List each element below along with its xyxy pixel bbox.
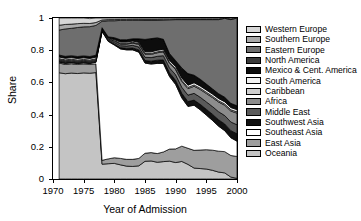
legend-label: Mexico & Cent. America [265, 66, 357, 75]
legend-swatch-icon [246, 88, 261, 95]
legend-item[interactable]: Southern Europe [246, 34, 357, 44]
x-tick-label: 1995 [189, 186, 223, 196]
legend-label: Southeast Asia [265, 128, 322, 137]
legend-swatch-icon [246, 108, 261, 115]
legend-label: Caribbean [265, 87, 305, 96]
legend-label: North America [265, 56, 319, 65]
x-tick-mark [53, 180, 54, 183]
plot-area [52, 17, 238, 180]
y-tick-label: 1 [22, 13, 44, 23]
legend-item[interactable]: Africa [246, 96, 357, 106]
legend-swatch-icon [246, 26, 261, 33]
legend-swatch-icon [246, 36, 261, 43]
y-tick-mark [49, 179, 52, 180]
x-tick-mark [84, 180, 85, 183]
legend: Western EuropeSouthern EuropeEastern Eur… [246, 24, 357, 158]
x-tick-mark [237, 180, 238, 183]
y-tick-label: 0.2 [22, 142, 44, 152]
legend-item[interactable]: East Asia [246, 138, 357, 148]
legend-item[interactable]: Caribbean [246, 86, 357, 96]
legend-item[interactable]: Mexico & Cent. America [246, 65, 357, 75]
legend-label: East Asia [265, 139, 301, 148]
legend-label: Southern Europe [265, 35, 330, 44]
y-axis-title: Share [6, 60, 18, 120]
x-tick-mark [145, 180, 146, 183]
legend-label: Oceania [265, 149, 297, 158]
legend-item[interactable]: Southeast Asia [246, 127, 357, 137]
x-tick-label: 1990 [159, 186, 193, 196]
y-tick-mark [49, 82, 52, 83]
legend-item[interactable]: Oceania [246, 148, 357, 158]
legend-swatch-icon [246, 139, 261, 146]
legend-swatch-icon [246, 98, 261, 105]
legend-swatch-icon [246, 129, 261, 136]
y-tick-label: 0.8 [22, 45, 44, 55]
x-tick-mark [206, 180, 207, 183]
legend-label: South America [265, 77, 321, 86]
legend-swatch-icon [246, 77, 261, 84]
legend-label: Middle East [265, 108, 310, 117]
y-tick-mark [49, 18, 52, 19]
legend-label: Western Europe [265, 25, 327, 34]
x-tick-label: 1985 [128, 186, 162, 196]
legend-item[interactable]: Western Europe [246, 24, 357, 34]
x-tick-label: 2000 [220, 186, 254, 196]
x-tick-label: 1975 [67, 186, 101, 196]
legend-item[interactable]: Southwest Asia [246, 117, 357, 127]
legend-label: Eastern Europe [265, 46, 325, 55]
legend-label: Southwest Asia [265, 118, 324, 127]
y-tick-mark [49, 50, 52, 51]
legend-label: Africa [265, 97, 287, 106]
legend-item[interactable]: South America [246, 76, 357, 86]
immigration-share-area-chart: 00.20.40.60.81 1970197519801985199019952… [0, 0, 361, 221]
x-tick-label: 1970 [36, 186, 70, 196]
y-tick-label: 0.4 [22, 110, 44, 120]
legend-swatch-icon [246, 57, 261, 64]
y-tick-label: 0.6 [22, 77, 44, 87]
legend-swatch-icon [246, 119, 261, 126]
legend-item[interactable]: Eastern Europe [246, 45, 357, 55]
x-tick-label: 1980 [97, 186, 131, 196]
x-tick-mark [176, 180, 177, 183]
y-tick-label: 0 [22, 174, 44, 184]
legend-item[interactable]: North America [246, 55, 357, 65]
legend-item[interactable]: Middle East [246, 107, 357, 117]
legend-swatch-icon [246, 150, 261, 157]
stacked-area-svg [53, 18, 237, 179]
legend-swatch-icon [246, 67, 261, 74]
legend-swatch-icon [246, 46, 261, 53]
x-axis-title: Year of Admission [52, 203, 238, 215]
x-tick-mark [114, 180, 115, 183]
y-tick-mark [49, 147, 52, 148]
y-tick-mark [49, 115, 52, 116]
